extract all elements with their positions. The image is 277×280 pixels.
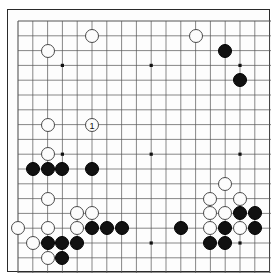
stone-black (174, 221, 188, 235)
stone-white (41, 44, 55, 58)
stone-black (41, 162, 55, 176)
stone-black (41, 236, 55, 250)
go-board-diagram: 1 (0, 0, 277, 280)
stone-black (248, 221, 262, 235)
stone-black (115, 221, 129, 235)
stone-white (41, 192, 55, 206)
stone-white (41, 251, 55, 265)
stone-black (26, 162, 40, 176)
stone-white (189, 29, 203, 43)
stone-black (100, 221, 114, 235)
stone-white (26, 236, 40, 250)
stone-black (85, 162, 99, 176)
stone-white (41, 221, 55, 235)
board-frame: 1 (7, 9, 270, 272)
stone-white-move-1: 1 (85, 118, 99, 132)
stone-move-number: 1 (86, 119, 98, 133)
stone-white (233, 192, 247, 206)
stone-white (41, 118, 55, 132)
stone-white (41, 147, 55, 161)
stone-black (218, 44, 232, 58)
stone-white (218, 177, 232, 191)
stone-white (85, 29, 99, 43)
